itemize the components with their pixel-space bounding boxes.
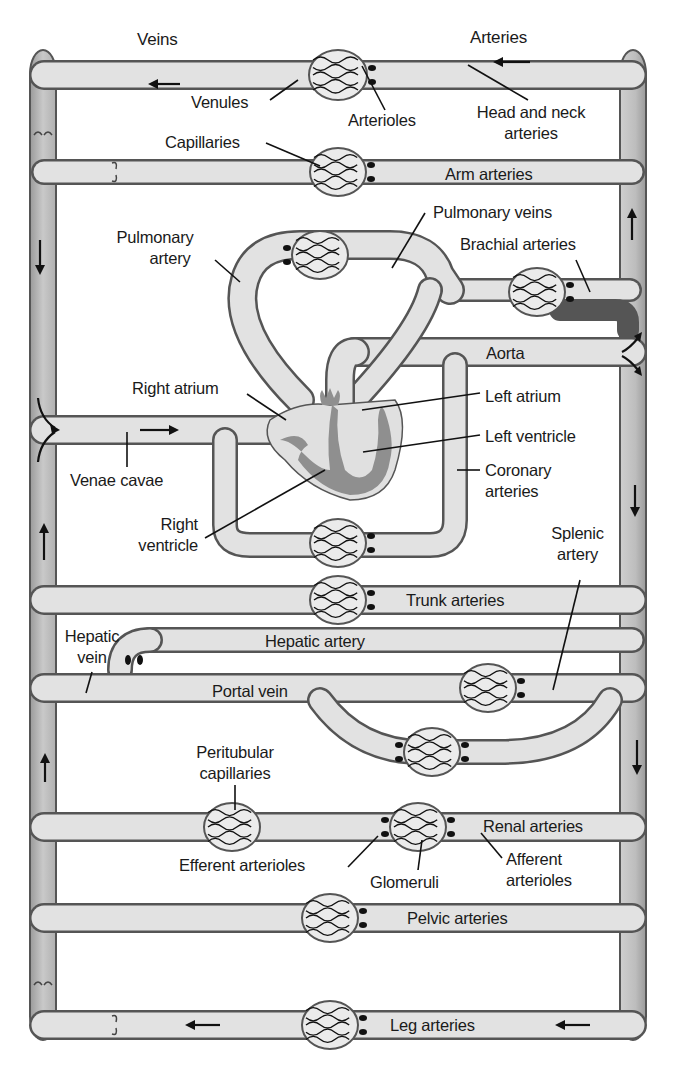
label-peritubular-line2: capillaries xyxy=(180,764,290,783)
hepatic-sphincter xyxy=(137,655,143,665)
label-pelvic-arteries: Pelvic arteries xyxy=(407,909,508,928)
label-pulmonary-artery-line1: Pulmonary xyxy=(100,228,210,247)
capillary-bed xyxy=(302,894,367,942)
label-venules: Venules xyxy=(191,93,248,112)
capillary-bed xyxy=(310,519,375,567)
label-head-neck-arteries: Head and neck arteries xyxy=(456,103,606,143)
label-brachial-arteries: Brachial arteries xyxy=(460,235,576,254)
label-portal-vein: Portal vein xyxy=(212,682,288,701)
label-afferent-line2: arterioles xyxy=(506,871,572,890)
capillary-bed xyxy=(381,803,455,851)
label-coronary-arteries: Coronary arteries xyxy=(485,461,551,501)
label-capillaries: Capillaries xyxy=(165,133,240,152)
label-left-atrium: Left atrium xyxy=(485,387,561,406)
capillary-bed xyxy=(395,728,469,776)
label-afferent-arterioles: Afferent arterioles xyxy=(506,850,572,890)
label-right-atrium: Right atrium xyxy=(132,379,219,398)
label-hepatic-vein-line2: vein xyxy=(56,648,128,667)
label-leg-arteries: Leg arteries xyxy=(390,1016,475,1035)
capillary-bed xyxy=(302,1001,367,1049)
label-head-neck-line1: Head and neck xyxy=(456,103,606,122)
label-right-ventricle-line2: ventricle xyxy=(100,536,198,555)
label-coronary-line2: arteries xyxy=(485,482,551,501)
capillary-bed xyxy=(310,576,375,624)
label-pulmonary-veins: Pulmonary veins xyxy=(433,203,552,222)
label-pulmonary-artery: Pulmonary artery xyxy=(100,228,210,268)
label-right-ventricle: Right ventricle xyxy=(100,515,198,555)
label-right-ventricle-line1: Right xyxy=(100,515,198,534)
label-efferent-arterioles: Efferent arterioles xyxy=(179,856,305,875)
capillary-bed xyxy=(204,803,260,851)
label-pulmonary-artery-line2: artery xyxy=(100,249,210,268)
label-trunk-arteries: Trunk arteries xyxy=(406,591,504,610)
label-hepatic-artery: Hepatic artery xyxy=(265,632,365,651)
label-peritubular-line1: Peritubular xyxy=(180,743,290,762)
label-left-ventricle: Left ventricle xyxy=(485,427,576,446)
label-splenic-line1: Splenic xyxy=(540,524,615,543)
label-hepatic-vein: Hepatic vein xyxy=(56,627,128,667)
capillary-bed xyxy=(310,148,375,196)
label-splenic-line2: artery xyxy=(540,545,615,564)
label-hepatic-vein-line1: Hepatic xyxy=(56,627,128,646)
label-aorta: Aorta xyxy=(486,344,524,363)
label-glomeruli: Glomeruli xyxy=(370,873,439,892)
label-arm-arteries: Arm arteries xyxy=(445,165,532,184)
label-arteries: Arteries xyxy=(470,28,527,47)
label-peritubular-capillaries: Peritubular capillaries xyxy=(180,743,290,783)
label-splenic-artery: Splenic artery xyxy=(540,524,615,564)
label-coronary-line1: Coronary xyxy=(485,461,551,480)
label-arterioles: Arterioles xyxy=(348,111,416,130)
label-afferent-line1: Afferent xyxy=(506,850,572,869)
pulmonary-circuit xyxy=(225,245,455,545)
label-veins: Veins xyxy=(137,30,178,49)
label-head-neck-line2: arteries xyxy=(456,124,606,143)
label-venae-cavae: Venae cavae xyxy=(70,471,163,490)
capillary-bed xyxy=(460,664,525,712)
label-renal-arteries: Renal arteries xyxy=(483,817,583,836)
